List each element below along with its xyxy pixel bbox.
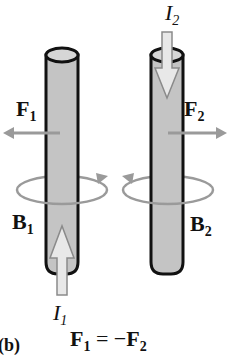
label-B1: B1 xyxy=(12,211,34,233)
label-I1: I1 xyxy=(53,302,67,324)
label-F1: F1 xyxy=(16,98,36,120)
equation: F1 = −F2 xyxy=(70,328,147,350)
left-rod-top xyxy=(46,48,78,62)
label-I2: I2 xyxy=(165,2,179,24)
label-B2: B2 xyxy=(190,213,212,235)
left-wire xyxy=(3,48,108,295)
right-force-arrowhead-icon xyxy=(216,127,227,139)
label-F2: F2 xyxy=(184,98,204,120)
panel-label: (b) xyxy=(0,336,20,354)
left-force-arrowhead-icon xyxy=(3,127,14,139)
